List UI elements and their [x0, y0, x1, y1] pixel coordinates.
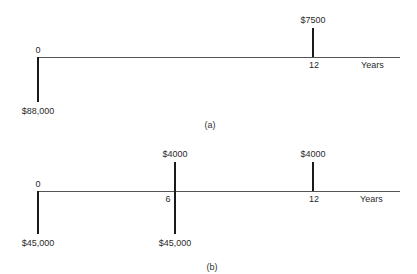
- axis-unit-label: Years: [361, 60, 384, 70]
- tick-label-6: 6: [165, 194, 170, 204]
- diagram-caption-a: (a): [205, 120, 216, 130]
- inflow-amount-12: $7500: [300, 15, 325, 25]
- outflow-arrow-0: [37, 57, 39, 102]
- outflow-amount-0: $45,000: [22, 238, 55, 248]
- tick-label-0: 0: [35, 45, 40, 55]
- inflow-arrow-12: [312, 162, 314, 191]
- outflow-amount-6: $45,000: [159, 238, 192, 248]
- inflow-arrow-12: [312, 28, 314, 57]
- axis-unit-label: Years: [360, 194, 383, 204]
- outflow-amount-0: $88,000: [22, 106, 55, 116]
- timeline-axis-a: [37, 57, 400, 58]
- inflow-arrow-6: [174, 162, 176, 191]
- inflow-amount-6: $4000: [162, 149, 187, 159]
- tick-label-0: 0: [35, 179, 40, 189]
- outflow-arrow-6: [174, 191, 176, 234]
- tick-label-12: 12: [309, 194, 319, 204]
- inflow-amount-12: $4000: [300, 149, 325, 159]
- outflow-arrow-0: [37, 191, 39, 234]
- timeline-axis-b: [37, 191, 400, 192]
- diagram-caption-b: (b): [207, 262, 218, 272]
- tick-label-12: 12: [309, 60, 319, 70]
